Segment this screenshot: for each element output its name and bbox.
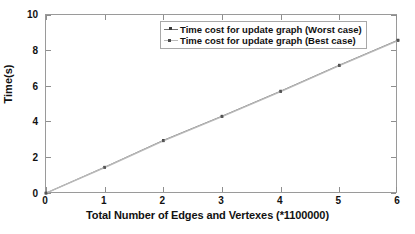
legend-marker-best-case-icon [164, 35, 178, 46]
y-axis-title: Time(s) [2, 44, 14, 124]
x-tick-label-4: 4 [270, 196, 290, 206]
data-point [279, 90, 282, 93]
x-tick-label-3: 3 [211, 196, 231, 206]
y-tick-label-10: 10 [20, 10, 38, 20]
legend-label-worst-case: Time cost for update graph (Worst case) [180, 24, 362, 35]
data-point [45, 192, 48, 195]
x-tick-label-0: 0 [35, 196, 55, 206]
y-tick-label-6: 6 [20, 82, 38, 92]
y-tick-label-2: 2 [20, 153, 38, 163]
y-tick-label-8: 8 [20, 46, 38, 56]
y-tick-label-4: 4 [20, 117, 38, 127]
legend-marker-worst-case-icon [164, 24, 178, 35]
x-tick-label-2: 2 [152, 196, 172, 206]
data-point [162, 140, 165, 143]
data-point [221, 115, 224, 118]
chart-figure: Time(s) 0 2 4 6 8 10 0 1 2 3 4 5 6 Total… [0, 0, 415, 234]
x-tick-label-6: 6 [387, 196, 407, 206]
x-axis-title: Total Number of Edges and Vertexes (*110… [0, 209, 415, 221]
legend-item-best-case[interactable]: Time cost for update graph (Best case) [164, 35, 362, 46]
x-tick-label-1: 1 [94, 196, 114, 206]
x-tick-label-5: 5 [328, 196, 348, 206]
legend: Time cost for update graph (Worst case) … [160, 21, 367, 49]
data-point [397, 39, 400, 42]
data-point [338, 64, 341, 67]
data-point [103, 166, 106, 169]
series-best-case [45, 39, 400, 194]
legend-item-worst-case[interactable]: Time cost for update graph (Worst case) [164, 24, 362, 35]
legend-label-best-case: Time cost for update graph (Best case) [180, 35, 356, 46]
